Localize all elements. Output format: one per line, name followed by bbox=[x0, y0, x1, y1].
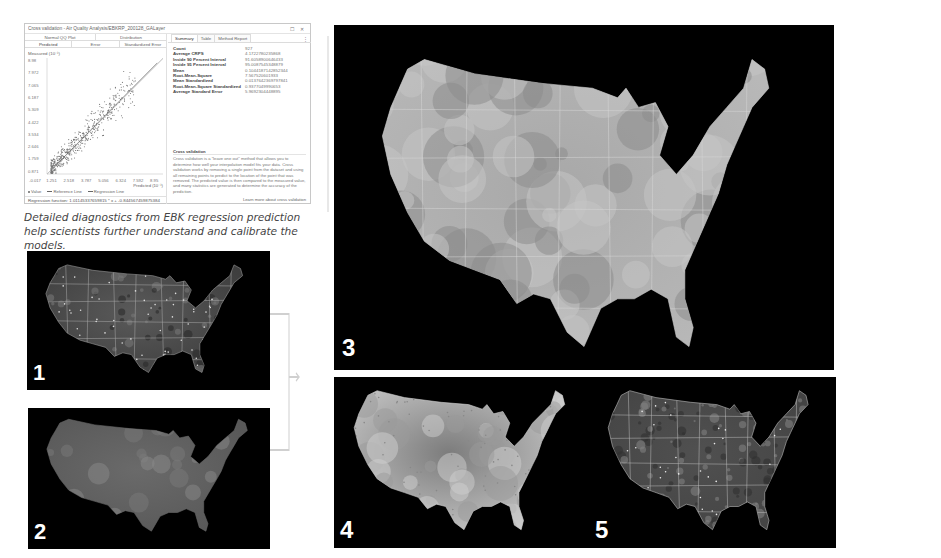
line-icon bbox=[47, 191, 52, 192]
us-map-graphic bbox=[334, 377, 594, 548]
tab-predicted[interactable]: Predicted bbox=[25, 41, 72, 47]
point-icon bbox=[28, 191, 30, 193]
stat-label: Average Standard Error bbox=[173, 89, 245, 94]
plot-legend: Value Reference Line Regression Line bbox=[28, 189, 124, 194]
cross-validation-window: Cross validation - Air Quality Analysis/… bbox=[24, 23, 311, 204]
tab-standardized-error[interactable]: Standardized Error bbox=[120, 41, 166, 47]
map-panel-5: 5 bbox=[589, 377, 836, 548]
close-button[interactable]: ✕ bbox=[297, 26, 307, 32]
y-tick-label: 5.309 bbox=[28, 107, 42, 112]
info-body: Cross validation is a "leave one out" me… bbox=[173, 156, 306, 194]
x-tick-label: 6.324 bbox=[116, 178, 126, 183]
map-panel-3: 3 bbox=[334, 25, 834, 370]
y-tick-label: 6.187 bbox=[28, 95, 42, 100]
y-tick-label: 8.98 bbox=[28, 58, 42, 63]
x-tick-label: 2.518 bbox=[64, 178, 74, 183]
figure-caption: Detailed diagnostics from EBK regression… bbox=[24, 210, 324, 252]
window-titlebar: Cross validation - Air Quality Analysis/… bbox=[25, 24, 310, 34]
y-tick-label: 3.534 bbox=[28, 132, 42, 137]
map-panel-1: 1 bbox=[27, 251, 270, 390]
map-number: 3 bbox=[342, 334, 355, 362]
stat-value: 5.9692304448895 bbox=[245, 89, 280, 94]
learn-more-link[interactable]: Learn more about cross validation bbox=[173, 197, 306, 202]
cross-validation-info: Cross validation Cross validation is a "… bbox=[173, 149, 306, 203]
scrollbar[interactable] bbox=[327, 36, 329, 212]
predicted-scatter-plot: Measured (10⁻¹) 8.987.9727.0656.1875.309… bbox=[25, 50, 167, 185]
x-tick-label: -0.017 bbox=[29, 178, 41, 183]
us-map-graphic bbox=[589, 377, 836, 548]
map-number: 1 bbox=[33, 360, 45, 386]
stat-row: Average Standard Error5.9692304448895 bbox=[173, 89, 306, 94]
map-panel-2: 2 bbox=[28, 408, 270, 549]
tab-error[interactable]: Error bbox=[72, 41, 119, 47]
plot-tabs-row-1: Normal QQ Plot Distribution bbox=[25, 34, 166, 41]
y-axis-label: Measured (10⁻¹) bbox=[28, 51, 60, 56]
legend-value: Value bbox=[28, 189, 41, 194]
plot-pane: Normal QQ Plot Distribution Predicted Er… bbox=[25, 34, 167, 204]
y-tick-label: 7.065 bbox=[28, 83, 42, 88]
y-tick-label: 0.871 bbox=[28, 169, 42, 174]
tab-method-report[interactable]: Method Report bbox=[214, 34, 251, 42]
map-number: 2 bbox=[34, 519, 46, 545]
legend-reference-line: Reference Line bbox=[47, 189, 81, 194]
map-panel-4: 4 bbox=[334, 377, 594, 548]
map-number: 5 bbox=[595, 516, 608, 544]
scatter-canvas bbox=[25, 50, 167, 185]
y-tick-label: 7.972 bbox=[28, 70, 42, 75]
x-tick-label: 5.056 bbox=[98, 178, 108, 183]
x-axis-label: Predicted (10⁻¹) bbox=[133, 183, 163, 188]
tab-distribution[interactable]: Distribution bbox=[96, 34, 166, 40]
regression-function: Regression function: 1.01145337659815 * … bbox=[25, 196, 167, 204]
restore-button[interactable]: ☐ bbox=[287, 26, 297, 32]
tab-normal-qq-plot[interactable]: Normal QQ Plot bbox=[25, 34, 96, 40]
info-heading: Cross validation bbox=[173, 149, 306, 155]
summary-tabs: Summary Table Method Report ⋮ bbox=[168, 34, 311, 43]
line-icon bbox=[88, 191, 93, 192]
us-map-graphic bbox=[27, 251, 270, 390]
summary-pane: Summary Table Method Report ⋮ Count927Av… bbox=[168, 34, 311, 204]
tab-summary[interactable]: Summary bbox=[171, 34, 198, 42]
plot-tabs-row-2: Predicted Error Standardized Error bbox=[25, 41, 166, 48]
summary-stats: Count927Average CRPS4.1722780235868Insid… bbox=[168, 43, 311, 95]
workflow-connector-arrow bbox=[270, 302, 300, 462]
us-map-graphic bbox=[28, 408, 270, 549]
y-tick-label: 1.759 bbox=[28, 156, 42, 161]
more-options-icon[interactable]: ⋮ bbox=[303, 36, 308, 42]
map-number: 4 bbox=[340, 516, 353, 544]
y-tick-label: 4.422 bbox=[28, 120, 42, 125]
legend-regression-line: Regression Line bbox=[88, 189, 124, 194]
us-map-graphic bbox=[334, 25, 834, 370]
window-title: Cross validation - Air Quality Analysis/… bbox=[28, 26, 287, 31]
tab-table[interactable]: Table bbox=[197, 34, 216, 42]
x-tick-label: 1.251 bbox=[46, 178, 56, 183]
y-tick-label: 2.646 bbox=[28, 144, 42, 149]
x-tick-label: 3.787 bbox=[81, 178, 91, 183]
